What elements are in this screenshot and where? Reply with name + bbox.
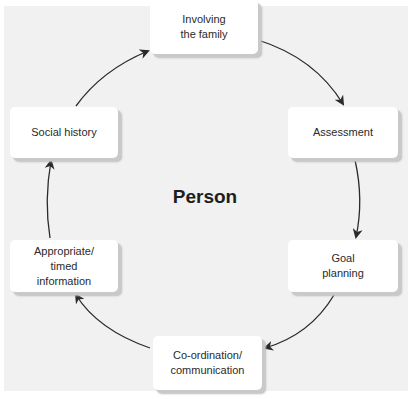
arrow-assessment-to-goal bbox=[355, 160, 360, 237]
node-goal-planning: Goal planning bbox=[288, 240, 398, 292]
arrow-coordination-to-appropriate bbox=[76, 295, 150, 348]
node-coordination-communication: Co-ordination/ communication bbox=[153, 336, 262, 390]
arrow-social-to-involving bbox=[76, 51, 148, 106]
node-assessment: Assessment bbox=[288, 107, 398, 158]
arrow-goal-to-coordination bbox=[265, 295, 334, 348]
node-appropriate-timed-information: Appropriate/ timed information bbox=[10, 240, 118, 292]
node-social-history: Social history bbox=[10, 107, 118, 158]
center-label: Person bbox=[140, 186, 270, 208]
arrow-appropriate-to-social bbox=[47, 161, 51, 238]
node-involving-the-family: Involving the family bbox=[150, 0, 258, 54]
arrow-involving-to-assessment bbox=[258, 40, 343, 104]
